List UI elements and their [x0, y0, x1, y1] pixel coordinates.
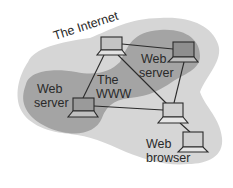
browser-label-line2: browser	[146, 151, 190, 165]
www-label-line1: The	[97, 73, 119, 87]
internet-www-diagram: The Internet The WWW Web server Web serv…	[0, 0, 233, 188]
laptop-icon-right	[168, 42, 198, 62]
laptop-icon-left	[68, 98, 98, 117]
laptop-icon-center	[158, 103, 188, 123]
www-label-line2: WWW	[96, 87, 132, 101]
right-server-label-line1: Web	[141, 52, 167, 66]
laptop-icon-browser	[178, 132, 208, 152]
laptop-icon-top	[97, 37, 126, 55]
left-server-label-line2: server	[34, 96, 69, 110]
browser-label-line1: Web	[146, 137, 172, 151]
right-server-label-line2: server	[139, 66, 174, 80]
left-server-label-line1: Web	[37, 82, 63, 96]
